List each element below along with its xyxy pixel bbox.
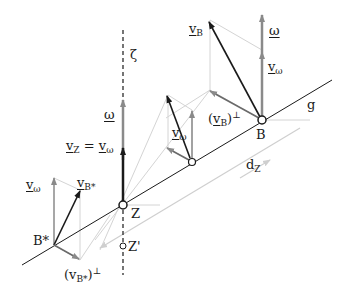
label-vb: vB xyxy=(189,22,203,35)
vbstar-vector xyxy=(54,191,80,245)
label-point-b: B xyxy=(256,128,266,141)
label-vb-perp: (vB)⊥ xyxy=(208,112,241,125)
label-dz: dZ xyxy=(246,158,261,171)
label-vomega-sub: ω xyxy=(106,145,113,155)
diagram-graphics xyxy=(0,0,344,296)
label-vbstar-sub: B* xyxy=(84,182,95,192)
label-dz-sub: Z xyxy=(254,164,260,174)
point-mid-marker xyxy=(189,159,196,166)
label-omega-z: ω xyxy=(104,108,115,121)
label-vomega-b-sub: ω xyxy=(275,66,282,76)
label-point-zprime: Z' xyxy=(128,240,141,253)
label-vz-sub: Z xyxy=(73,145,79,155)
label-vb-sub: B xyxy=(196,28,203,38)
label-vbstar-perp-sub: B* xyxy=(76,274,87,284)
label-point-z: Z xyxy=(131,207,140,220)
label-vbstar: vB* xyxy=(77,176,95,189)
diagram-canvas: ζ ω vZ = vω vB ω vω (vB)⊥ B g vω dZ Z Z'… xyxy=(0,0,344,296)
label-vomega-b: vω xyxy=(268,60,283,73)
line-g xyxy=(22,80,332,265)
perp-symbol-bstar: ⊥ xyxy=(93,266,101,276)
label-vomega-bstar-sub: ω xyxy=(33,184,40,194)
point-zprime-marker xyxy=(120,243,126,249)
vb-vector xyxy=(209,22,260,117)
label-vb-perp-sub: B xyxy=(220,118,227,128)
point-z-marker xyxy=(119,201,127,209)
label-line-g: g xyxy=(307,98,315,111)
label-vz-eq: vZ = vω xyxy=(66,139,114,152)
label-vbstar-perp: (vB*)⊥ xyxy=(64,268,101,281)
label-point-bstar: B* xyxy=(33,234,49,247)
dz-dimension-line xyxy=(100,128,300,248)
vperp-vector-mid xyxy=(167,148,189,160)
label-vomega-bstar: vω xyxy=(26,178,41,191)
point-b-marker xyxy=(258,116,266,124)
vbstar-perp-vector xyxy=(54,245,79,259)
label-eq: = xyxy=(80,138,99,153)
label-vomega-mid: vω xyxy=(172,126,187,139)
label-vomega-mid-sub: ω xyxy=(179,132,186,142)
label-omega-b: ω xyxy=(269,24,280,37)
perp-symbol: ⊥ xyxy=(232,110,240,120)
paren-close-bstar: ) xyxy=(88,267,93,282)
label-zeta: ζ xyxy=(130,48,137,61)
